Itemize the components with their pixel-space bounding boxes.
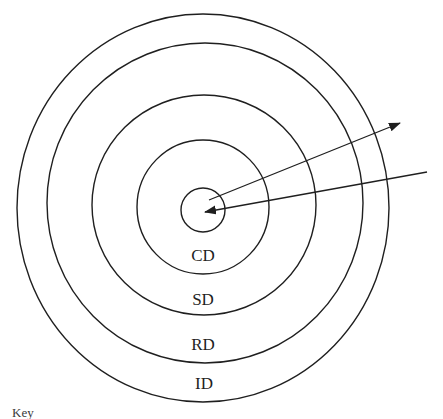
- diagram-canvas: CD SD RD ID Key: [0, 0, 443, 419]
- ring-label-sd: SD: [192, 290, 214, 309]
- ring-sd-circle: [92, 95, 316, 315]
- ring-label-cd: CD: [191, 246, 215, 265]
- outward-arrow: [209, 123, 400, 200]
- ring-label-id: ID: [195, 374, 213, 393]
- concentric-circles-diagram: CD SD RD ID Key: [0, 0, 443, 419]
- key-label: Key: [12, 405, 34, 419]
- ring-label-rd: RD: [191, 335, 215, 354]
